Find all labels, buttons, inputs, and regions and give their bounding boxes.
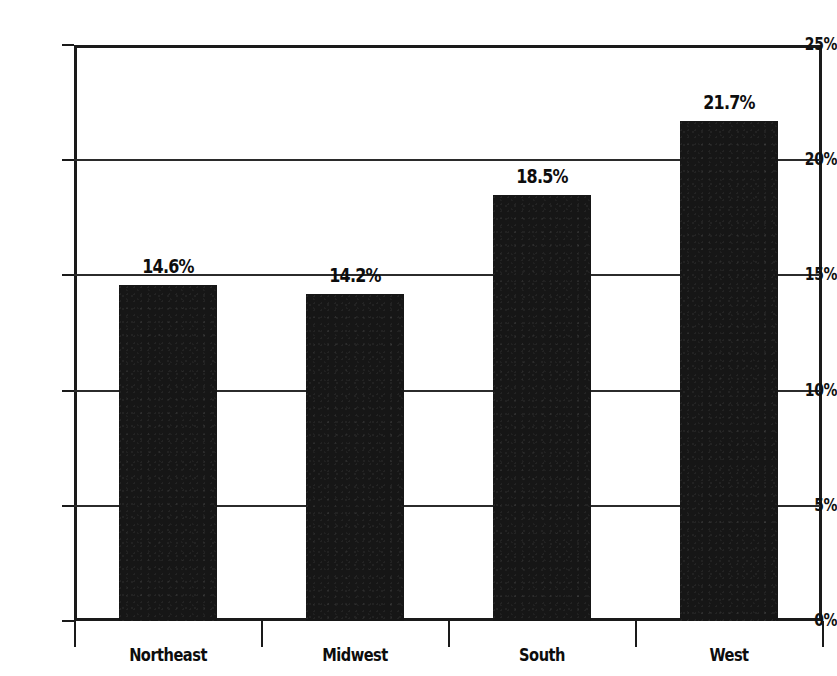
y-axis-tick-label: 20% [789, 149, 837, 169]
bar-value-label: 14.2% [296, 264, 414, 286]
x-axis-category-label: South [473, 645, 611, 665]
x-axis-tick-mark [261, 621, 263, 647]
y-axis-tick-label: 0% [789, 610, 837, 630]
x-axis-tick-mark [822, 621, 824, 647]
y-axis-tick-label: 15% [789, 264, 837, 284]
bar [680, 121, 778, 621]
x-axis-category-label: Northeast [99, 645, 237, 665]
clipped-title-text [0, 0, 837, 2]
x-axis-category-label: Midwest [286, 645, 424, 665]
y-axis-tick-mark [62, 44, 74, 46]
x-axis-tick-mark [74, 621, 76, 647]
bar [119, 285, 217, 621]
y-axis-tick-label: 10% [789, 380, 837, 400]
y-axis-tick-label: 5% [789, 495, 837, 515]
bar [493, 195, 591, 621]
x-axis-tick-mark [448, 621, 450, 647]
y-axis-tick-label: 25% [789, 34, 837, 54]
y-axis-tick-mark [62, 390, 74, 392]
bar-chart-figure: 25%20%15%10%5%0% 14.6%14.2%18.5%21.7% No… [0, 0, 837, 676]
bar-value-label: 18.5% [483, 165, 601, 187]
bar-value-label: 21.7% [670, 91, 788, 113]
bar [306, 294, 404, 621]
x-axis-category-label: West [660, 645, 798, 665]
y-axis-tick-mark [62, 159, 74, 161]
bar-value-label: 14.6% [109, 255, 227, 277]
y-axis-tick-mark [62, 274, 74, 276]
x-axis-tick-mark [635, 621, 637, 647]
y-axis-tick-mark [62, 620, 74, 622]
y-axis-tick-mark [62, 505, 74, 507]
